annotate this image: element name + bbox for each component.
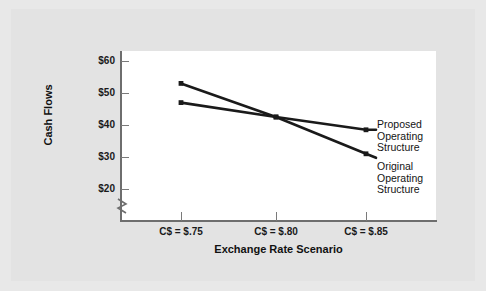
x-tick-1 — [276, 212, 277, 221]
y-tick-label-20-wrap: $20 — [69, 183, 115, 195]
annotation-original-line-1: Original — [377, 161, 423, 173]
annotation-original-operating-structure: Original Operating Structure — [377, 161, 423, 196]
y-tick-label-30: $30 — [71, 151, 115, 162]
x-tick-0 — [181, 212, 182, 221]
annotation-proposed-line-1: Proposed — [377, 119, 423, 131]
y-tick-20 — [121, 189, 129, 190]
annotation-proposed-operating-structure: Proposed Operating Structure — [377, 119, 423, 154]
x-axis-title: Exchange Rate Scenario — [121, 243, 436, 255]
y-tick-label-50-wrap: $50 — [69, 87, 115, 99]
y-tick-40 — [121, 125, 129, 126]
y-tick-label-40-wrap: $40 — [69, 119, 115, 131]
y-tick-label-30-wrap: $30 — [69, 151, 115, 163]
y-tick-label-60: $60 — [71, 55, 115, 66]
y-tick-60 — [121, 61, 129, 62]
y-tick-label-50: $50 — [71, 87, 115, 98]
chart-figure: $60 $50 $40 $30 $20 C$ = $.75 C$ = $.80 … — [0, 0, 486, 291]
y-axis-title: Cash Flows — [42, 70, 54, 160]
annotation-proposed-line-3: Structure — [377, 142, 423, 154]
axis-break-icon — [115, 197, 131, 215]
x-tick-2 — [366, 212, 367, 221]
annotation-original-line-3: Structure — [377, 184, 423, 196]
y-tick-30 — [121, 157, 129, 158]
y-tick-label-20: $20 — [71, 183, 115, 194]
y-tick-label-40: $40 — [71, 119, 115, 130]
chart-panel: $60 $50 $40 $30 $20 C$ = $.75 C$ = $.80 … — [11, 9, 475, 281]
y-tick-label-60-wrap: $60 — [69, 55, 115, 67]
y-tick-50 — [121, 93, 129, 94]
x-axis-line — [120, 220, 437, 222]
x-tick-label-2: C$ = $.85 — [306, 226, 426, 237]
